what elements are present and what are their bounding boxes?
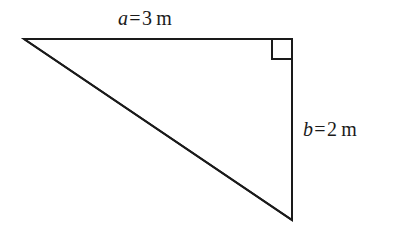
triangle-drawing bbox=[0, 0, 400, 233]
side-b-unit: m bbox=[341, 118, 357, 140]
triangle-diagram: a=3m b=2m bbox=[0, 0, 400, 233]
side-a-equals: = bbox=[128, 7, 142, 29]
side-b-equals: = bbox=[313, 118, 327, 140]
side-b-variable: b bbox=[303, 118, 313, 140]
side-a-variable: a bbox=[118, 7, 128, 29]
right-angle-marker-icon bbox=[272, 39, 292, 59]
side-a-value: 3 bbox=[142, 7, 152, 29]
side-b-label: b=2m bbox=[303, 119, 357, 139]
side-a-unit: m bbox=[156, 7, 172, 29]
hypotenuse-edge bbox=[24, 39, 292, 220]
side-a-label: a=3m bbox=[118, 8, 172, 28]
side-b-value: 2 bbox=[327, 118, 337, 140]
